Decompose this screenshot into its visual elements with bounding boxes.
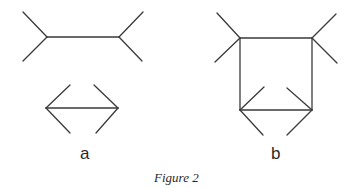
panel-a-inward-fins-shape: [46, 85, 118, 133]
muller-lyer-figure: [0, 0, 357, 188]
panel-a-label: a: [80, 144, 89, 164]
panel-a-outward-fins-shape: [23, 12, 143, 61]
panel-b-inward-fins-shape: [240, 87, 312, 135]
panel-b-label: b: [271, 144, 280, 164]
figure-caption: Figure 2: [154, 170, 199, 186]
panel-b-outward-fins-shape: [215, 13, 337, 63]
